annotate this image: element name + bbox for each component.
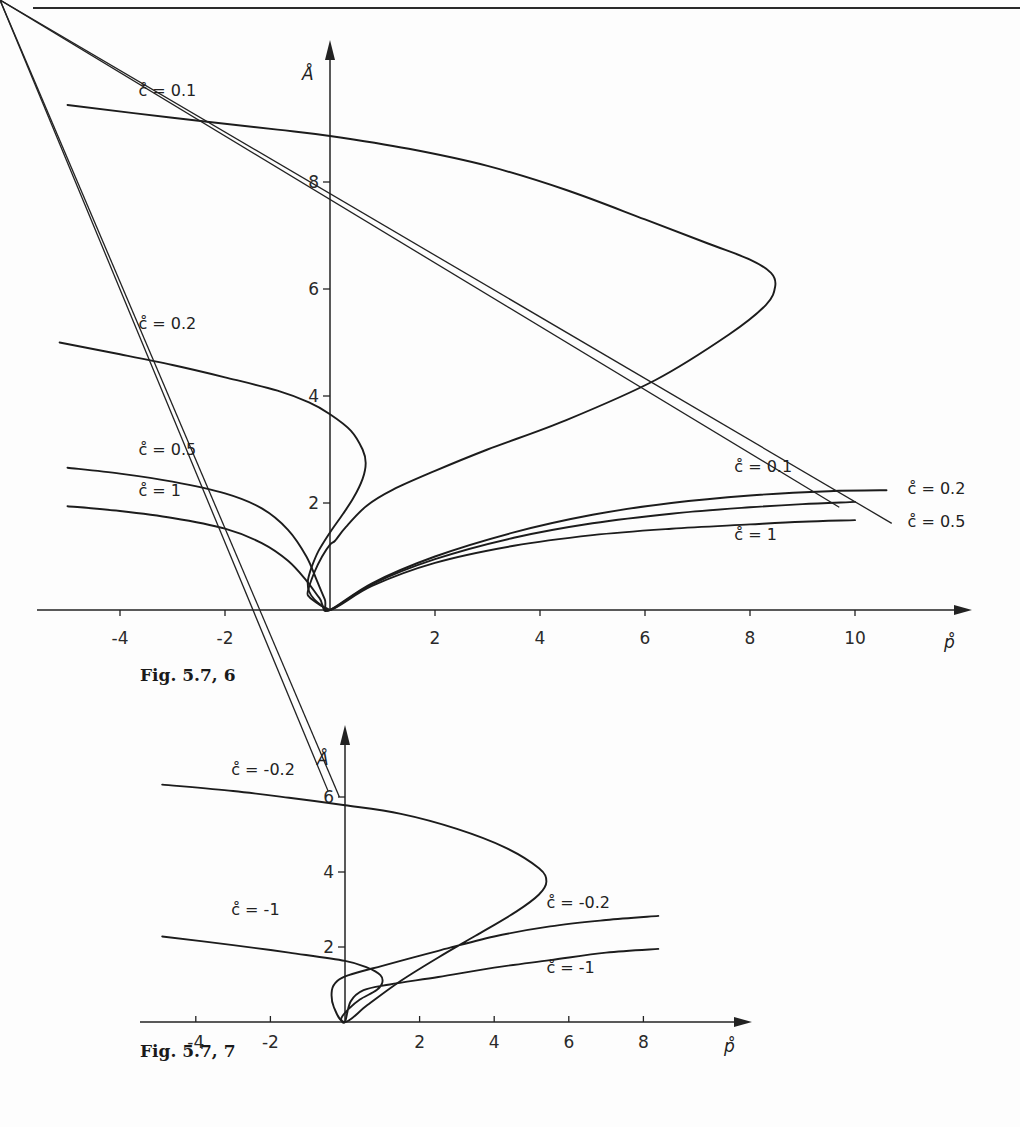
series-label: c̊ = -0.2 — [231, 760, 295, 779]
x-tick-label: 8 — [638, 1032, 649, 1052]
label-leader-line — [0, 0, 339, 797]
x-tick-label: 4 — [489, 1032, 500, 1052]
series-label: c̊ = -0.2 — [546, 893, 610, 912]
y-tick-label: 2 — [323, 937, 334, 957]
x-axis-label: p̊ — [723, 1036, 735, 1056]
x-tick-label: 2 — [414, 1032, 425, 1052]
x-tick-label: 6 — [563, 1032, 574, 1052]
y-tick-label: 4 — [323, 862, 334, 882]
x-axis-arrow-icon — [734, 1017, 752, 1027]
series-label: c̊ = -1 — [231, 900, 279, 919]
series-curve-c-1 — [162, 937, 658, 1023]
label-leader-line — [0, 0, 328, 791]
x-tick-label: -2 — [262, 1032, 279, 1052]
series-label: c̊ = -1 — [546, 958, 594, 977]
y-axis-arrow-icon — [340, 725, 350, 745]
chart-fig-5-7-7: -4-22468246Åp̊c̊ = -0.2c̊ = -1c̊ = -0.2c… — [0, 0, 1020, 1127]
document-page: -4-22468102468Åp̊c̊ = 0.1c̊ = 0.2c̊ = 0.… — [0, 0, 1020, 1127]
figure-caption-2: Fig. 5.7, 7 — [140, 1041, 236, 1061]
